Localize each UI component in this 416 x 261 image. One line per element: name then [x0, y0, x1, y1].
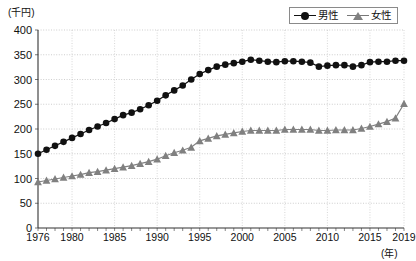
data-point-male	[171, 87, 178, 94]
data-point-female	[162, 152, 170, 159]
data-point-male	[179, 82, 186, 89]
data-point-male	[111, 116, 118, 123]
legend-label-female: 女性	[371, 10, 391, 21]
data-point-male	[86, 127, 93, 134]
data-point-female	[179, 146, 187, 153]
data-point-female	[400, 100, 408, 107]
data-point-male	[316, 63, 323, 70]
circle-marker-icon	[294, 11, 316, 20]
data-point-male	[94, 123, 101, 130]
data-point-male	[52, 143, 59, 150]
data-point-male	[299, 58, 306, 65]
data-point-male	[60, 139, 67, 146]
data-point-male	[103, 120, 110, 127]
data-point-male	[367, 59, 374, 66]
data-point-male	[205, 67, 212, 74]
data-point-female	[153, 155, 161, 162]
data-point-male	[35, 150, 42, 157]
legend-item-male: 男性	[294, 10, 338, 21]
data-point-male	[350, 63, 357, 70]
data-point-male	[265, 58, 272, 65]
data-point-male	[282, 58, 289, 65]
data-point-male	[239, 58, 246, 65]
data-point-male	[120, 112, 127, 119]
data-point-male	[401, 57, 408, 64]
data-point-male	[247, 56, 254, 63]
data-point-male	[196, 71, 203, 78]
data-point-male	[392, 57, 399, 64]
triangle-marker-icon	[347, 11, 369, 20]
data-point-male	[358, 62, 365, 69]
data-point-male	[222, 61, 229, 68]
data-point-male	[230, 60, 237, 67]
legend-item-female: 女性	[347, 10, 391, 21]
data-point-male	[375, 58, 382, 65]
data-point-male	[43, 146, 50, 153]
data-point-male	[137, 106, 144, 113]
data-point-male	[384, 58, 391, 65]
data-point-male	[154, 97, 161, 104]
data-point-male	[128, 109, 135, 116]
data-point-male	[256, 57, 263, 64]
data-point-male	[273, 59, 280, 66]
data-point-male	[145, 102, 152, 109]
data-point-male	[162, 92, 169, 99]
legend-label-male: 男性	[318, 10, 338, 21]
data-point-male	[290, 58, 297, 65]
data-point-male	[341, 62, 348, 69]
data-point-female	[187, 143, 195, 150]
data-point-female	[392, 114, 400, 121]
data-point-male	[77, 131, 84, 138]
series-line-female	[38, 104, 404, 182]
chart-legend: 男性 女性	[289, 7, 398, 24]
data-point-male	[69, 135, 76, 142]
data-point-male	[188, 76, 195, 83]
series-line-male	[38, 60, 404, 154]
data-point-female	[383, 118, 391, 125]
data-point-male	[333, 62, 340, 69]
data-point-male	[324, 62, 331, 69]
data-point-male	[213, 63, 220, 70]
data-point-male	[307, 59, 314, 66]
